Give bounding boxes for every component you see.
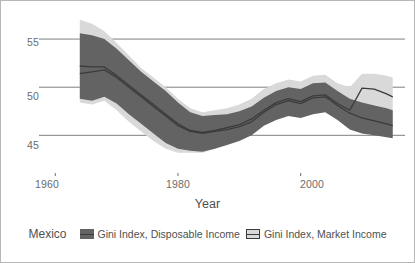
plot-area — [1, 1, 415, 263]
x-tick-label-1960: 1960 — [23, 178, 71, 190]
x-tick-marks — [55, 173, 300, 176]
legend-entry-market-income[interactable]: Gini Index, Market Income — [246, 228, 387, 240]
x-axis-title: Year — [1, 197, 414, 211]
y-tick-label-45: 45 — [15, 139, 39, 151]
legend-label-disposable-income: Gini Index, Disposable Income — [98, 228, 240, 240]
chart-figure: 55 50 45 1960 1980 2000 Year Mexico Gini… — [0, 0, 415, 263]
legend-swatch-midline — [247, 234, 259, 235]
x-tick-label-2000: 2000 — [288, 178, 336, 190]
y-tick-label-55: 55 — [15, 36, 39, 48]
legend-swatch-market-income — [246, 229, 260, 239]
legend-group-label: Mexico — [29, 227, 67, 241]
legend-entry-disposable-income[interactable]: Gini Index, Disposable Income — [80, 228, 240, 240]
legend-label-market-income: Gini Index, Market Income — [264, 228, 387, 240]
chart-legend: Mexico Gini Index, Disposable Income Gin… — [1, 227, 414, 241]
legend-swatch-midline — [80, 234, 94, 235]
x-tick-label-1980: 1980 — [154, 178, 202, 190]
y-tick-label-50: 50 — [15, 90, 39, 102]
legend-swatch-disposable-income — [80, 229, 94, 239]
